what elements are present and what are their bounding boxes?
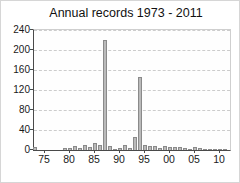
gridline-240 — [34, 30, 230, 31]
y-axis-tick-mark-40 — [30, 129, 33, 130]
bar-1986 — [98, 145, 102, 150]
bar-1979 — [63, 148, 67, 150]
y-axis-tick-label-120: 120 — [6, 84, 30, 95]
x-axis-tick-mark-00 — [169, 150, 170, 153]
bar-1988 — [108, 146, 112, 150]
bar-2006 — [198, 148, 202, 150]
bar-2011 — [223, 149, 227, 150]
bar-2009 — [213, 149, 217, 150]
gridline-80 — [34, 110, 230, 111]
y-axis-tick-label-200: 200 — [6, 44, 30, 55]
y-axis-tick-label-160: 160 — [6, 64, 30, 75]
y-axis-tick-mark-240 — [30, 29, 33, 30]
bar-2003 — [183, 148, 187, 150]
x-axis-tick-mark-95 — [144, 150, 145, 153]
bar-1985 — [93, 143, 97, 150]
y-axis-tick-label-80: 80 — [6, 104, 30, 115]
x-axis-tick-label-75: 75 — [33, 154, 55, 165]
x-axis-tick-mark-85 — [94, 150, 95, 153]
bar-2007 — [203, 149, 207, 150]
x-axis-tick-mark-80 — [69, 150, 70, 153]
bar-1981 — [73, 146, 77, 150]
gridline-40 — [34, 130, 230, 131]
bar-1999 — [163, 146, 167, 150]
bar-1992 — [128, 148, 132, 150]
bar-2008 — [208, 149, 212, 150]
x-axis-tick-label-05: 05 — [183, 154, 205, 165]
y-axis-tick-label-0: 0 — [6, 144, 30, 155]
x-axis-tick-mark-90 — [119, 150, 120, 153]
bar-2004 — [188, 149, 192, 150]
x-axis-tick-label-90: 90 — [108, 154, 130, 165]
x-axis-tick-mark-05 — [194, 150, 195, 153]
x-axis-tick-mark-75 — [44, 150, 45, 153]
bar-1973 — [33, 147, 37, 150]
y-axis-tick-label-40: 40 — [6, 124, 30, 135]
x-axis-tick-mark-10 — [219, 150, 220, 153]
bar-2002 — [178, 147, 182, 150]
bar-1984 — [88, 147, 92, 150]
y-axis-tick-mark-80 — [30, 109, 33, 110]
bar-1998 — [158, 148, 162, 150]
plot-area — [33, 29, 231, 151]
chart-screenshot: Annual records 1973 - 2011 0408012016020… — [0, 0, 240, 183]
chart-title: Annual records 1973 - 2011 — [21, 6, 231, 20]
x-axis-tick-label-10: 10 — [208, 154, 230, 165]
x-axis-tick-label-95: 95 — [133, 154, 155, 165]
bar-1996 — [148, 146, 152, 150]
y-axis-tick-mark-120 — [30, 89, 33, 90]
bar-1993 — [133, 137, 137, 150]
bar-1987 — [103, 40, 107, 150]
gridline-200 — [34, 50, 230, 51]
bar-2001 — [173, 147, 177, 150]
gridline-120 — [34, 90, 230, 91]
y-axis-tick-label-240: 240 — [6, 24, 30, 35]
y-axis-tick-mark-0 — [30, 149, 33, 150]
bar-1982 — [78, 148, 82, 150]
gridline-160 — [34, 70, 230, 71]
bar-1997 — [153, 146, 157, 150]
bar-1994 — [138, 77, 142, 150]
bar-1989 — [113, 149, 117, 150]
x-axis-tick-label-80: 80 — [58, 154, 80, 165]
y-axis-tick-mark-160 — [30, 69, 33, 70]
bar-1983 — [83, 145, 87, 150]
bar-1991 — [123, 145, 127, 150]
x-axis-tick-label-85: 85 — [83, 154, 105, 165]
x-axis-tick-label-00: 00 — [158, 154, 180, 165]
y-axis-tick-mark-200 — [30, 49, 33, 50]
